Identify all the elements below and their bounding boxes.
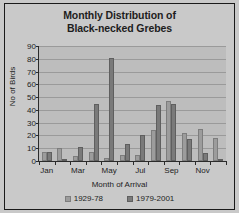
y-tick-label: 30 [27, 118, 36, 127]
legend-swatch [127, 196, 133, 202]
y-tick-label: 10 [27, 144, 36, 153]
bar [140, 135, 145, 161]
bar [171, 104, 176, 162]
chart-figure: Monthly Distribution of Black-necked Gre… [4, 3, 235, 210]
y-tick-label: 70 [27, 67, 36, 76]
bar-group [86, 46, 102, 161]
y-tick-label: 20 [27, 131, 36, 140]
legend-label: 1979-2001 [136, 194, 174, 203]
bar [187, 139, 192, 161]
bar-group [133, 46, 149, 161]
x-tick-mark [179, 161, 180, 165]
x-tick-label: Jul [135, 166, 145, 175]
bar-group [195, 46, 211, 161]
x-tick-mark [117, 161, 118, 165]
x-tick-mark [86, 161, 87, 165]
bar-group [117, 46, 133, 161]
bar-group [179, 46, 195, 161]
legend-item: 1979-2001 [127, 194, 174, 203]
bar [125, 144, 130, 161]
legend-label: 1929-78 [74, 194, 103, 203]
bar [62, 159, 67, 161]
x-tick-label: Jan [40, 166, 53, 175]
bar [203, 153, 208, 161]
x-tick-label: Sep [164, 166, 178, 175]
bar-group [70, 46, 86, 161]
bar-series-container [39, 46, 226, 161]
chart-title-line-2: Black-necked Grebes [5, 22, 234, 35]
chart-title-line-1: Monthly Distribution of [5, 9, 234, 22]
x-tick-label: Nov [196, 166, 210, 175]
bar-group [210, 46, 226, 161]
bar-group [101, 46, 117, 161]
y-tick-label: 0 [32, 157, 36, 166]
x-tick-mark [39, 161, 40, 165]
bar [94, 104, 99, 162]
bar [47, 152, 52, 161]
plot-area: 0102030405060708090 JanMarMayJulSepNov [38, 46, 226, 162]
x-tick-mark [148, 161, 149, 165]
x-tick-mark [55, 161, 56, 165]
x-tick-mark [70, 161, 71, 165]
chart-title: Monthly Distribution of Black-necked Gre… [5, 9, 234, 34]
y-tick-label: 50 [27, 93, 36, 102]
bar-group [148, 46, 164, 161]
x-tick-mark [210, 161, 211, 165]
x-tick-mark [101, 161, 102, 165]
x-tick-label: Mar [71, 166, 85, 175]
legend-swatch [65, 196, 71, 202]
y-tick-label: 40 [27, 105, 36, 114]
chart-legend: 1929-781979-2001 [5, 194, 234, 203]
bar [213, 138, 218, 161]
bar [156, 105, 161, 161]
x-axis-title: Month of Arrival [5, 180, 234, 189]
bar [109, 58, 114, 162]
y-tick-label: 80 [27, 54, 36, 63]
bar-group [164, 46, 180, 161]
x-tick-mark [133, 161, 134, 165]
x-tick-mark [226, 161, 227, 165]
bar-group [39, 46, 55, 161]
y-tick-label: 60 [27, 80, 36, 89]
bar-group [55, 46, 71, 161]
y-tick-label: 90 [27, 42, 36, 51]
x-tick-label: May [102, 166, 117, 175]
bar [218, 159, 223, 161]
legend-item: 1929-78 [65, 194, 103, 203]
bar [78, 147, 83, 161]
x-tick-mark [195, 161, 196, 165]
y-axis-title: No of Birds [8, 52, 17, 122]
x-tick-mark [164, 161, 165, 165]
